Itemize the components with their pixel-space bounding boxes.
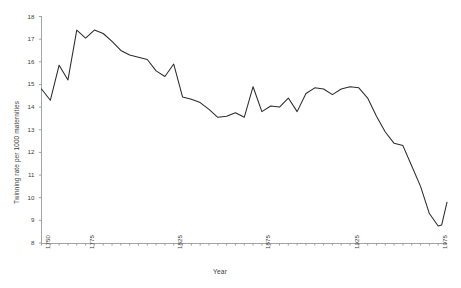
y-tick-label: 18	[21, 13, 35, 20]
x-tick-label: 1875	[264, 235, 271, 249]
x-tick-label: 1750	[44, 235, 51, 249]
y-tick-label: 16	[21, 58, 35, 65]
x-tick-label: 1825	[176, 235, 183, 249]
x-axis-title: Year	[213, 268, 227, 275]
x-tick-label: 1775	[88, 235, 95, 249]
y-tick-label: 15	[21, 80, 35, 87]
y-tick-label: 11	[21, 171, 35, 178]
y-tick-label: 13	[21, 126, 35, 133]
y-tick-label: 10	[21, 194, 35, 201]
y-tick-label: 8	[21, 239, 35, 246]
x-tick-label: 1925	[353, 235, 360, 249]
y-tick-label: 14	[21, 103, 35, 110]
y-tick-label: 17	[21, 35, 35, 42]
y-tick-label: 12	[21, 148, 35, 155]
y-axis-title: Twinning rate per 1000 maternities	[13, 101, 20, 204]
y-tick-label: 9	[21, 216, 35, 223]
chart-plot-area	[0, 0, 461, 288]
x-tick-label: 1975	[441, 235, 448, 249]
chart-axes	[39, 16, 447, 246]
data-line-twinning-rate	[42, 30, 448, 226]
twinning-rate-line-chart: 89101112131415161718 1750177518251875192…	[0, 0, 461, 288]
